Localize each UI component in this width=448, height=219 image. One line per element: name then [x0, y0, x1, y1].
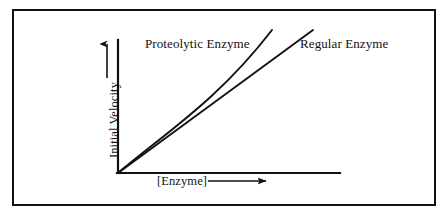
x-axis-label: [Enzyme]: [157, 174, 207, 188]
proteolytic-enzyme-curve: [118, 30, 272, 173]
regular-enzyme-label: Regular Enzyme: [300, 37, 388, 51]
enzyme-kinetics-figure: Proteolytic Enzyme Regular Enzyme [Enzym…: [0, 0, 448, 219]
regular-enzyme-line: [118, 30, 313, 173]
figure-canvas: [0, 0, 448, 219]
proteolytic-enzyme-label: Proteolytic Enzyme: [145, 37, 250, 51]
y-axis-label: Initial Velocity: [107, 82, 121, 158]
